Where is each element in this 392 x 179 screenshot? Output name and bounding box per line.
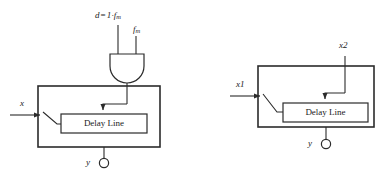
and-gate-input-label-d: d=1·fm: [95, 11, 121, 21]
diagram-canvas: [0, 0, 392, 179]
right-signal-label-y: y: [308, 139, 312, 148]
right-output-terminal-circle: [321, 139, 330, 148]
left-delay-line-label: Delay Line: [61, 119, 147, 128]
equals-sign: =: [100, 10, 107, 20]
subscript-m: m: [116, 13, 121, 20]
right-signal-label-x1: x1: [236, 80, 245, 89]
left-signal-label-y: y: [86, 158, 90, 167]
right-delay-line-label: Delay Line: [283, 108, 368, 117]
figure-root: d=1·fm fm x Delay Line y x2 x1 Delay Lin…: [0, 0, 392, 179]
left-output-terminal-circle: [99, 158, 108, 167]
right-outer-block: [258, 66, 374, 127]
and-gate-body: [110, 54, 144, 83]
right-switch-connector: [263, 94, 283, 112]
and-gate-input-label-fm: fm: [133, 25, 140, 35]
left-outer-block: [38, 86, 160, 147]
right-control-route: [325, 93, 345, 99]
right-signal-label-x2: x2: [339, 41, 348, 50]
subscript-m-2: m: [136, 27, 141, 34]
left-control-route: [103, 104, 127, 110]
left-signal-label-x: x: [20, 99, 24, 108]
left-switch-connector: [43, 112, 61, 124]
